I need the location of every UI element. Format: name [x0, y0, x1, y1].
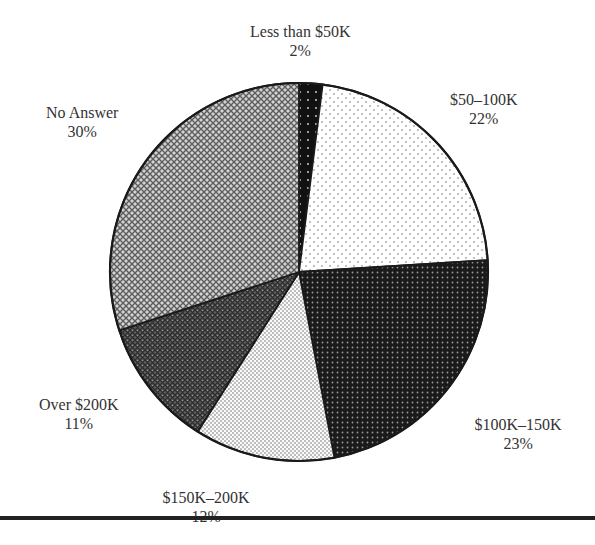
slice-label-percent: 22%	[450, 109, 518, 128]
slice-label-name: Over $200K	[39, 395, 119, 414]
slice-label-percent: 30%	[46, 122, 118, 141]
slice-label: Less than $50K2%	[250, 22, 350, 60]
slice-label-name: $150K–200K	[163, 488, 250, 507]
slice-label: $150K–200K12%	[163, 488, 250, 526]
bottom-rule	[0, 516, 595, 520]
slice-label-name: $50–100K	[450, 90, 518, 109]
pie-chart	[0, 0, 595, 545]
slice-label-percent: 23%	[475, 434, 562, 453]
slice-label: $100K–150K23%	[475, 415, 562, 453]
slice-label-percent: 2%	[250, 41, 350, 60]
slice-label-percent: 11%	[39, 414, 119, 433]
slice-label-name: $100K–150K	[475, 415, 562, 434]
slice-label-name: Less than $50K	[250, 22, 350, 41]
slice-label: No Answer30%	[46, 103, 118, 141]
slice-label: Over $200K11%	[39, 395, 119, 433]
slice-label-name: No Answer	[46, 103, 118, 122]
slice-label: $50–100K22%	[450, 90, 518, 128]
